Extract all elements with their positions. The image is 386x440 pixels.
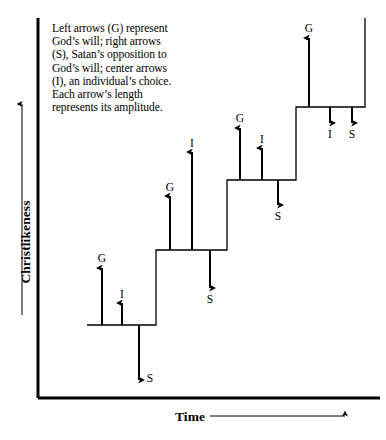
arrow-label-s: S	[202, 293, 218, 305]
arrow-label-s: S	[270, 210, 286, 222]
arrow-label-i: I	[254, 133, 270, 145]
arrow-label-i: I	[114, 288, 130, 300]
arrow-label-g: G	[94, 252, 110, 264]
arrow-label-s: S	[142, 372, 158, 384]
arrow-label-g: G	[301, 22, 317, 34]
arrow-label-i: I	[184, 137, 200, 149]
figure-caption: Left arrows (G) represent God’s will; ri…	[52, 22, 176, 114]
arrow-label-i: I	[322, 128, 338, 140]
arrow-label-g: G	[162, 181, 178, 193]
arrow-label-s: S	[344, 128, 360, 140]
x-axis-label: Time	[175, 409, 205, 425]
y-axis-label: Christlikeness	[18, 172, 34, 312]
figure-canvas: GISGISGISGIS Left arrows (G) represent G…	[0, 0, 386, 440]
arrow-label-g: G	[232, 112, 248, 124]
